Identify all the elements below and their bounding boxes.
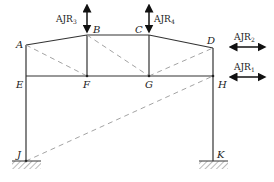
node-label-G: G (145, 79, 153, 90)
load-label-AJR1: AJR1 (233, 62, 255, 73)
support-J (12, 161, 41, 169)
dashed-JH (26, 76, 213, 161)
support-K (199, 161, 228, 169)
dashed-BG (87, 35, 149, 76)
load-label-AJR4: AJR4 (153, 14, 175, 25)
node-label-A: A (15, 39, 23, 50)
load-label-AJR2: AJR2 (233, 32, 255, 43)
node-label-J: J (15, 149, 22, 160)
frame-diagram: A B C D E F G H J K AJR3 AJR4 AJR2 AJR1 (0, 0, 274, 182)
dashed-GD (149, 48, 213, 76)
node-label-E: E (15, 79, 24, 90)
member-CD (149, 35, 213, 48)
node-label-H: H (217, 79, 227, 90)
node-label-K: K (216, 149, 225, 160)
node-label-C: C (135, 24, 143, 35)
member-AB (26, 35, 87, 45)
dashed-members (26, 35, 213, 161)
node-label-F: F (82, 79, 91, 90)
solid-members (26, 35, 213, 161)
node-label-D: D (206, 35, 215, 46)
load-label-AJR3: AJR3 (55, 14, 77, 25)
dashed-AF (26, 45, 87, 76)
node-label-B: B (92, 24, 100, 35)
